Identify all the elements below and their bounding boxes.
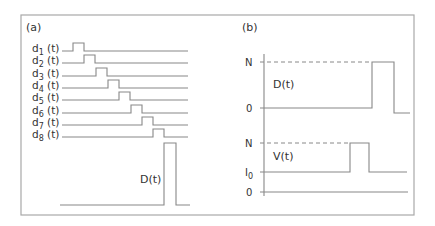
channel-trace (62, 68, 188, 76)
tick-label-zero-bottom: 0 (246, 187, 252, 198)
panel-a-label: (a) (26, 21, 41, 34)
tick-label-n-top: N (245, 57, 252, 68)
tick-label-i0: I0 (245, 167, 253, 181)
tick-label-zero-top: 0 (246, 103, 252, 114)
channel-trace (62, 43, 188, 51)
d-signal-label: D(t) (273, 78, 294, 91)
channel-trace (62, 55, 188, 63)
channel-row: d8 (t) (32, 128, 188, 143)
top-plot: N 0 D(t) (245, 57, 410, 114)
figure-canvas: (a) d1 (t)d2 (t)d3 (t)d4 (t)d5 (t)d6 (t)… (0, 0, 435, 226)
channel-trace (62, 92, 188, 100)
panel-a: (a) d1 (t)d2 (t)d3 (t)d4 (t)d5 (t)d6 (t)… (26, 21, 190, 205)
panel-b-label: (b) (242, 21, 258, 34)
tick-label-n-bottom: N (245, 138, 252, 149)
panel-b: (b) N 0 D(t) N I0 0 V(t) (242, 21, 410, 198)
channel-label: d8 (t) (32, 128, 59, 143)
channel-trace (62, 80, 188, 88)
channel-trace (62, 129, 188, 137)
channel-rows: d1 (t)d2 (t)d3 (t)d4 (t)d5 (t)d6 (t)d7 (… (32, 42, 188, 143)
figure-frame (21, 15, 414, 215)
bottom-plot: N I0 0 V(t) (245, 138, 408, 198)
v-signal-label: V(t) (273, 150, 293, 163)
sum-signal-label: D(t) (140, 173, 161, 186)
channel-trace (62, 117, 188, 125)
sum-signal-a: D(t) (60, 143, 190, 205)
channel-trace (62, 105, 188, 113)
sum-signal-trace (60, 143, 190, 205)
